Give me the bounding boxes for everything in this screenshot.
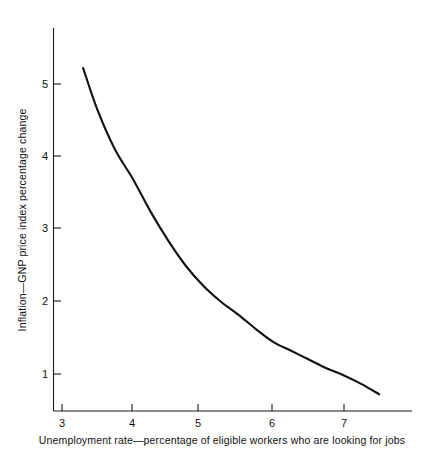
x-tick-label-5: 5 xyxy=(195,417,201,429)
y-axis-title: Inflation—GNP price index percentage cha… xyxy=(16,109,28,332)
y-tick-label-5: 5 xyxy=(42,78,48,90)
y-tick-label-1: 1 xyxy=(42,368,48,380)
x-tick-label-4: 4 xyxy=(129,417,135,429)
y-tick-label-4: 4 xyxy=(42,150,48,162)
y-tick-label-2: 2 xyxy=(42,295,48,307)
x-tick-label-7: 7 xyxy=(341,417,347,429)
phillips-curve-line xyxy=(83,68,379,394)
x-tick-label-6: 6 xyxy=(269,417,275,429)
chart-canvas: 5 4 3 2 1 3 4 5 6 7 Inflation—GNP price … xyxy=(0,0,427,450)
y-tick-label-3: 3 xyxy=(42,222,48,234)
x-tick-label-3: 3 xyxy=(59,417,65,429)
x-axis-title: Unemployment rate—percentage of eligible… xyxy=(39,434,405,446)
phillips-curve-figure: 5 4 3 2 1 3 4 5 6 7 Inflation—GNP price … xyxy=(0,0,427,450)
